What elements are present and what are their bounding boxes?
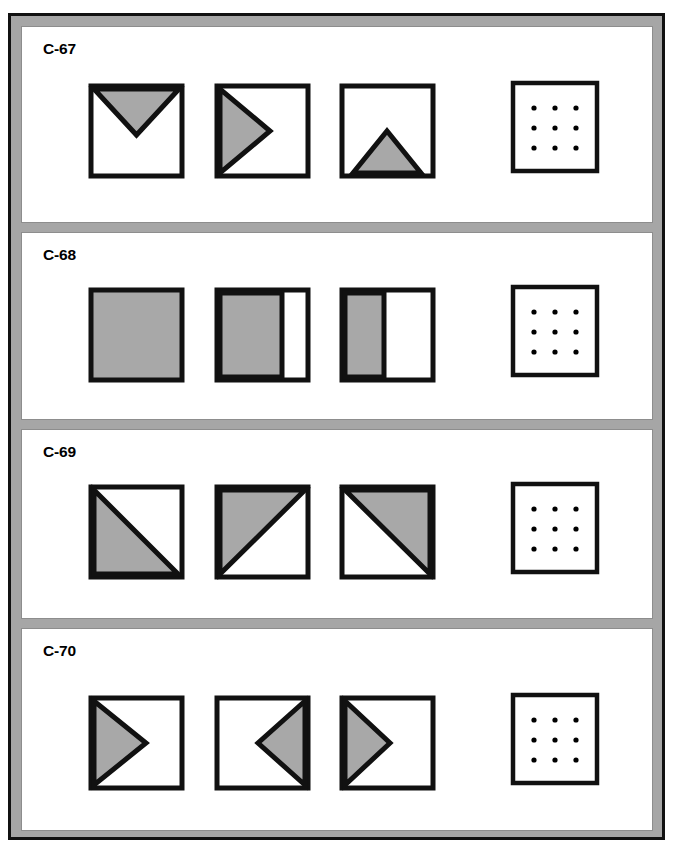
figure-square-right-chevron-from-left-small[interactable]: [339, 695, 436, 791]
figure-square-filled-left-three-quarters[interactable]: [214, 287, 311, 383]
figure-square-upper-left-triangle[interactable]: [214, 484, 311, 580]
figure-square-fully-filled[interactable]: [88, 287, 185, 383]
item-panel-c69[interactable]: C-69: [21, 429, 653, 619]
figure-square-upper-right-triangle[interactable]: [339, 484, 436, 580]
figure-square-upward-triangle-from-bottom[interactable]: [339, 83, 436, 179]
item-panel-c70[interactable]: C-70: [21, 628, 653, 831]
figure-row-c67: [22, 27, 652, 222]
figure-answer-dot-grid-c67[interactable]: [510, 80, 600, 174]
figure-row-c70: [22, 629, 652, 830]
figure-answer-dot-grid-c68[interactable]: [510, 284, 600, 378]
figure-square-right-chevron-from-left-large[interactable]: [88, 695, 185, 791]
panel-stack: C-67: [21, 26, 653, 827]
figure-answer-dot-grid-c69[interactable]: [510, 481, 600, 575]
figure-row-c69: [22, 430, 652, 618]
figure-square-filled-left-half[interactable]: [339, 287, 436, 383]
figure-square-right-chevron-from-left[interactable]: [214, 83, 311, 179]
figure-square-downward-triangle-from-top[interactable]: [88, 83, 185, 179]
figure-row-c68: [22, 233, 652, 419]
figure-square-left-chevron-from-right[interactable]: [214, 695, 311, 791]
figure-square-lower-left-triangle[interactable]: [88, 484, 185, 580]
item-panel-c67[interactable]: C-67: [21, 26, 653, 223]
item-panel-c68[interactable]: C-68: [21, 232, 653, 420]
figure-answer-dot-grid-c70[interactable]: [510, 692, 600, 786]
worksheet-sheet: C-67: [8, 13, 665, 840]
